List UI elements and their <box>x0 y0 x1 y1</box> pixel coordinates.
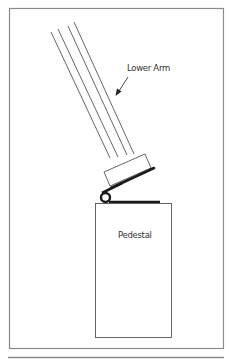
arrowhead-icon <box>116 89 122 97</box>
arm-line <box>74 22 134 154</box>
diagram-canvas: Lower Arm Pedestal <box>0 0 229 359</box>
annotation-arrow <box>119 77 128 91</box>
pedestal-label: Pedestal <box>118 230 152 240</box>
arm-line <box>51 32 110 158</box>
hinge <box>101 193 110 202</box>
lower-arm <box>51 22 134 158</box>
lower-arm-label: Lower Arm <box>127 63 170 73</box>
pedestal <box>96 204 172 338</box>
arm-line <box>58 29 118 157</box>
